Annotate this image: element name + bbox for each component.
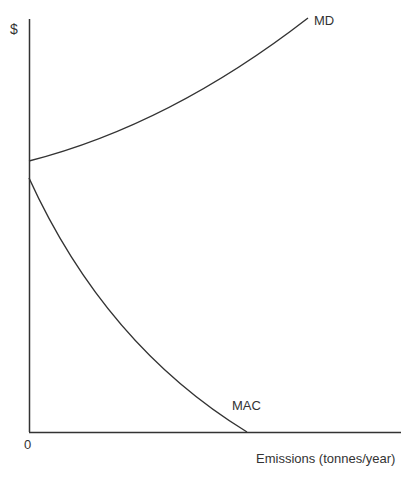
- chart-canvas: [0, 0, 417, 478]
- md-curve: [29, 18, 308, 161]
- origin-label: 0: [24, 437, 31, 452]
- md-curve-label: MD: [314, 13, 334, 28]
- x-axis-label: Emissions (tonnes/year): [256, 451, 395, 466]
- y-axis-label: $: [10, 21, 18, 37]
- mac-curve: [29, 178, 247, 432]
- mac-curve-label: MAC: [232, 398, 261, 413]
